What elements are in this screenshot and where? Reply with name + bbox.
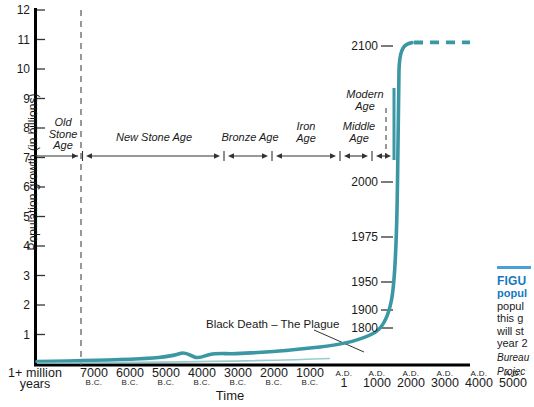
- era-old-stone-line1: Old: [54, 116, 71, 128]
- caption-line-4: year 2: [497, 337, 534, 350]
- era-label-new-stone-age: New Stone Age: [104, 132, 204, 144]
- caption-line-2: this g: [497, 312, 534, 325]
- era-modern-line1: Modern: [346, 88, 383, 100]
- figure-caption: FIGU popul popul this g will st year 2 B…: [497, 266, 534, 407]
- era-label-modern-age: Modern Age: [339, 89, 391, 112]
- y-tick-label-10: 10: [8, 62, 30, 76]
- curve-year-label-2100: 2100: [326, 39, 378, 53]
- caption-bold-line: popul: [497, 287, 534, 300]
- y-tick-label-5: 5: [8, 210, 30, 224]
- annotation-black-death: Black Death – The Plague: [206, 318, 339, 330]
- curve-year-label-1975: 1975: [326, 230, 378, 244]
- era-middle-line2: Age: [349, 132, 369, 144]
- y-tick-label-8: 8: [8, 121, 30, 135]
- caption-line-1: popul: [497, 300, 534, 313]
- x-tick-label-0: 1+ million years: [3, 368, 67, 390]
- era-iron-line1: Iron: [297, 120, 316, 132]
- caption-source-2: Projec: [497, 366, 534, 378]
- y-tick-label-2: 2: [8, 298, 30, 312]
- era-iron-line2: Age: [296, 132, 316, 144]
- y-tick-label-1: 1: [8, 328, 30, 342]
- curve-year-label-1900: 1900: [326, 303, 378, 317]
- population-growth-chart: Population growth (in billions) 12 11 10…: [0, 0, 534, 407]
- y-tick-label-9: 9: [8, 92, 30, 106]
- era-arrow-rail: [36, 151, 391, 161]
- y-tick-label-12: 12: [8, 3, 30, 17]
- era-old-stone-line2: Stone: [49, 128, 78, 140]
- y-tick-label-11: 11: [8, 33, 30, 47]
- era-old-stone-line3: Age: [53, 139, 73, 151]
- era-middle-line1: Middle: [343, 120, 375, 132]
- x-tick-0-sub: years: [3, 379, 67, 390]
- x-axis-title: Time: [170, 388, 290, 403]
- caption-line-3: will st: [497, 325, 534, 338]
- chart-canvas: [0, 0, 534, 407]
- caption-rule: [497, 266, 531, 269]
- curve-year-label-1950: 1950: [326, 275, 378, 289]
- era-label-old-stone-age: Old Stone Age: [43, 117, 83, 152]
- caption-figure-word: FIGU: [497, 275, 534, 288]
- curve-year-label-2000: 2000: [326, 175, 378, 189]
- era-label-middle-age: Middle Age: [337, 121, 381, 144]
- y-tick-label-6: 6: [8, 180, 30, 194]
- era-modern-line2: Age: [355, 100, 375, 112]
- y-tick-label-3: 3: [8, 269, 30, 283]
- era-label-iron-age: Iron Age: [288, 121, 324, 144]
- era-label-bronze-age: Bronze Age: [212, 132, 288, 144]
- y-axis-title: Population growth (in billions): [26, 87, 40, 257]
- caption-source-1: Bureau: [497, 352, 534, 364]
- y-tick-label-7: 7: [8, 151, 30, 165]
- y-tick-label-4: 4: [8, 239, 30, 253]
